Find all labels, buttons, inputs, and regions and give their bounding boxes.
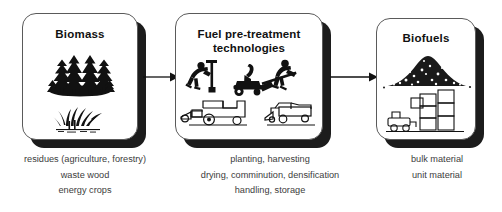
right-arrow-icon [143,70,179,84]
caption-line: planting, harvesting [166,152,374,168]
caption-line: bulk material [372,152,502,168]
stage-pretreatment: Fuel pre-treatment technologies [175,13,323,140]
caption-line: residues (agriculture, forestry) [0,152,170,168]
process-flow-diagram: Biomass [0,0,502,212]
caption-line: handling, storage [166,183,374,199]
caption-line: unit material [372,168,502,184]
caption-line: drying, comminution, densification [166,168,374,184]
stage-biomass-title: Biomass [22,28,138,42]
stage-biofuels-title: Biofuels [376,32,476,46]
stage-pretreatment-title-line2: technologies [213,42,285,54]
caption-group-biomass: residues (agriculture, forestry) waste w… [0,152,170,199]
arrow-biomass-to-pretreatment [143,70,179,84]
caption-group-biofuels: bulk material unit material [372,152,502,183]
stage-biomass: Biomass [22,13,138,140]
stage-pretreatment-title-line1: Fuel pre-treatment [198,28,301,40]
right-arrow-icon [330,70,378,84]
stage-pretreatment-title: Fuel pre-treatment technologies [175,28,323,55]
arrow-pretreatment-to-biofuels [330,70,378,84]
stage-biofuels: Biofuels [376,18,476,140]
caption-group-pretreatment: planting, harvesting drying, comminution… [166,152,374,199]
caption-line: energy crops [0,183,170,199]
caption-line: waste wood [0,168,170,184]
